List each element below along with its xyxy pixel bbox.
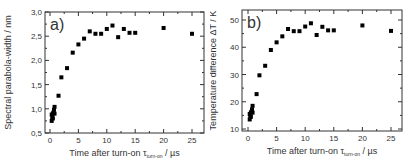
y-axis-label: Temperature difference ΔT / K xyxy=(210,11,218,131)
x-tick-label: 0 xyxy=(246,134,251,143)
data-point xyxy=(88,29,92,33)
data-point xyxy=(263,64,267,68)
data-point xyxy=(360,23,364,27)
data-point xyxy=(255,92,259,96)
y-tick-label: 2,0 xyxy=(31,56,43,65)
data-point xyxy=(251,111,255,115)
x-tick-label: 20 xyxy=(358,134,367,143)
data-series xyxy=(248,21,393,121)
x-tick-label: 15 xyxy=(131,136,140,145)
y-tick-label: 1,5 xyxy=(31,81,43,90)
data-point xyxy=(53,112,57,116)
data-point xyxy=(269,48,273,52)
y-tick-label: 1,0 xyxy=(31,105,43,114)
data-point xyxy=(71,51,75,55)
data-point xyxy=(110,24,114,28)
x-axis-label: Time after turn-on τturn-on / µs xyxy=(69,148,180,159)
data-point xyxy=(303,25,307,29)
x-axis-label: Time after turn-on τturn-on / µs xyxy=(267,146,378,157)
data-point xyxy=(53,105,57,109)
data-point xyxy=(93,32,97,36)
x-tick-label: 5 xyxy=(76,136,81,145)
data-point xyxy=(76,42,80,46)
chart-b-svg: 05101520251020304050b)Time after turn-on… xyxy=(210,0,420,162)
x-tick-label: 15 xyxy=(329,134,338,143)
y-tick-label: 30 xyxy=(230,71,239,80)
x-tick-label: 10 xyxy=(102,136,111,145)
data-series xyxy=(50,24,194,123)
data-point xyxy=(65,66,69,70)
data-point xyxy=(99,32,103,36)
data-point xyxy=(59,75,63,79)
data-point xyxy=(190,32,194,36)
y-tick-label: 20 xyxy=(230,98,239,107)
x-tick-label: 0 xyxy=(48,136,53,145)
y-tick-label: 3,0 xyxy=(31,8,43,17)
data-point xyxy=(297,29,301,33)
y-tick-label: 0,5 xyxy=(31,129,43,138)
data-point xyxy=(105,27,109,31)
data-point xyxy=(257,73,261,77)
chart-b: 05101520251020304050b)Time after turn-on… xyxy=(210,0,420,162)
data-point xyxy=(315,33,319,37)
data-point xyxy=(389,29,393,33)
data-point xyxy=(82,37,86,41)
y-tick-label: 40 xyxy=(230,43,239,52)
y-tick-label: 2,5 xyxy=(31,32,43,41)
data-point xyxy=(326,28,330,32)
data-point xyxy=(332,28,336,32)
x-tick-label: 5 xyxy=(274,134,279,143)
data-point xyxy=(286,27,290,31)
y-tick-label: 50 xyxy=(230,16,239,25)
x-tick-label: 20 xyxy=(159,136,168,145)
panel-label: b) xyxy=(247,14,261,31)
data-point xyxy=(116,35,120,39)
data-point xyxy=(251,104,255,108)
y-tick-label: 10 xyxy=(230,125,239,134)
data-point xyxy=(122,27,126,31)
data-point xyxy=(292,29,296,33)
data-point xyxy=(249,115,253,119)
x-tick-label: 25 xyxy=(387,134,396,143)
data-point xyxy=(320,25,324,29)
y-axis-label: Spectral parabola-width / nm xyxy=(3,15,13,130)
data-point xyxy=(57,94,61,98)
chart-a: 05101520250,51,01,52,02,53,0a)Time after… xyxy=(0,0,210,162)
data-point xyxy=(162,26,166,30)
data-point xyxy=(51,116,55,120)
data-point xyxy=(280,34,284,38)
data-point xyxy=(133,31,137,35)
data-point xyxy=(275,40,279,44)
x-axis: 0510152025 xyxy=(48,12,197,145)
data-point xyxy=(128,31,132,35)
x-tick-label: 10 xyxy=(301,134,310,143)
x-axis: 0510152025 xyxy=(246,10,396,143)
x-tick-label: 25 xyxy=(188,136,197,145)
chart-a-svg: 05101520250,51,01,52,02,53,0a)Time after… xyxy=(0,0,210,162)
panel-label: a) xyxy=(50,16,64,33)
data-point xyxy=(309,21,313,25)
